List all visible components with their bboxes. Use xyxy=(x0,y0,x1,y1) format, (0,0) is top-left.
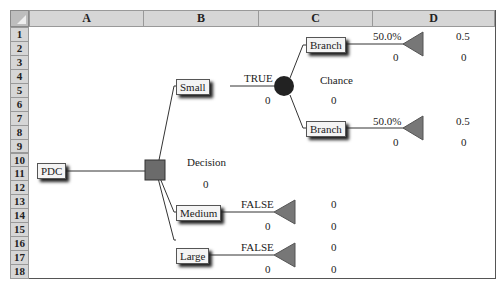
large-payoff: 0 xyxy=(331,241,337,253)
chance-node-icon xyxy=(274,76,294,96)
branch-large[interactable]: Large xyxy=(176,248,209,264)
large-value: 0 xyxy=(265,263,271,275)
medium-flag: FALSE xyxy=(241,198,274,210)
root-node-pdc[interactable]: PDC xyxy=(37,163,66,179)
terminal-node-icon xyxy=(403,32,423,56)
large-payoff-value: 0 xyxy=(331,263,337,275)
decision-value: 0 xyxy=(203,178,209,190)
terminal-node-icon xyxy=(274,243,295,267)
branch1-payoff: 0.5 xyxy=(456,30,470,42)
branch2-value: 0 xyxy=(393,136,399,148)
large-flag: FALSE xyxy=(241,241,274,253)
chance-branch-2[interactable]: Branch xyxy=(306,121,346,137)
terminal-node-icon xyxy=(274,200,295,224)
decision-node-icon xyxy=(145,160,165,180)
small-flag: TRUE xyxy=(244,72,273,84)
terminal-node-icon xyxy=(403,116,423,140)
medium-payoff: 0 xyxy=(331,198,337,210)
medium-payoff-value: 0 xyxy=(331,220,337,232)
branch1-value: 0 xyxy=(393,51,399,63)
chance-branch-1[interactable]: Branch xyxy=(306,37,346,53)
decision-label: Decision xyxy=(187,156,226,168)
medium-value: 0 xyxy=(265,220,271,232)
branch2-probability: 50.0% xyxy=(373,115,401,127)
branch2-payoff-value: 0 xyxy=(461,136,467,148)
chance-label: Chance xyxy=(320,74,353,86)
branch1-probability: 50.0% xyxy=(373,30,401,42)
branch2-payoff: 0.5 xyxy=(456,115,470,127)
branch-medium[interactable]: Medium xyxy=(176,205,221,221)
tree-connector-lines xyxy=(0,0,501,299)
branch-small[interactable]: Small xyxy=(176,79,210,95)
branch1-payoff-value: 0 xyxy=(461,51,467,63)
small-value: 0 xyxy=(265,94,271,106)
chance-value: 0 xyxy=(331,94,337,106)
